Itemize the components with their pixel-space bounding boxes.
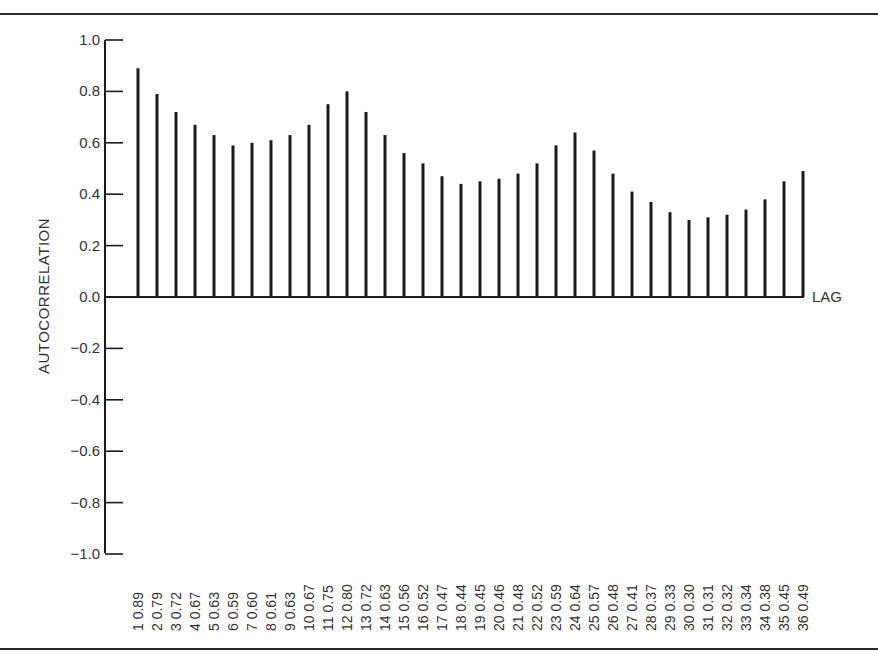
lag-value-label: 33 0.34	[738, 584, 754, 631]
lag-value-label: 27 0.41	[624, 584, 640, 631]
lag-value-label: 13 0.72	[358, 584, 374, 631]
lag-value-label: 1 0.89	[130, 592, 146, 631]
lag-value-label: 30 0.30	[681, 584, 697, 631]
y-tick-label: −0.4	[70, 391, 100, 408]
lag-value-label: 15 0.56	[396, 584, 412, 631]
y-tick-label: 0.6	[79, 134, 100, 151]
lag-value-label: 31 0.31	[700, 584, 716, 631]
lag-value-label: 5 0.63	[206, 592, 222, 631]
y-tick-label: −0.8	[70, 494, 100, 511]
lag-value-label: 20 0.46	[491, 584, 507, 631]
y-tick-label: 0.8	[79, 82, 100, 99]
lag-value-label: 10 0.67	[301, 584, 317, 631]
lag-value-label: 25 0.57	[586, 584, 602, 631]
lag-value-label: 14 0.63	[377, 584, 393, 631]
y-tick-label: 0.0	[79, 288, 100, 305]
lag-value-label: 9 0.63	[282, 592, 298, 631]
lag-value-label: 17 0.47	[434, 584, 450, 631]
lag-value-label: 12 0.80	[339, 584, 355, 631]
lag-value-label: 7 0.60	[244, 592, 260, 631]
lag-value-label: 22 0.52	[529, 584, 545, 631]
lag-value-label: 11 0.75	[320, 585, 336, 631]
lag-value-label: 6 0.59	[225, 592, 241, 631]
lag-value-label: 36 0.49	[795, 584, 811, 631]
lag-value-label: 32 0.32	[719, 584, 735, 631]
lag-value-label: 4 0.67	[187, 592, 203, 631]
y-tick-label: −1.0	[70, 545, 100, 562]
lag-value-label: 28 0.37	[643, 584, 659, 631]
lag-value-label: 26 0.48	[605, 584, 621, 631]
lag-value-label: 16 0.52	[415, 584, 431, 631]
y-axis-label: AUTOCORRELATION	[35, 218, 52, 374]
lag-value-label: 23 0.59	[548, 584, 564, 631]
lag-value-label: 21 0.48	[510, 584, 526, 631]
lag-value-label: 19 0.45	[472, 584, 488, 631]
lag-value-label: 2 0.79	[149, 592, 165, 631]
lag-value-label: 8 0.61	[263, 592, 279, 631]
y-tick-label: 1.0	[79, 31, 100, 48]
x-axis-label: LAG	[812, 288, 842, 305]
y-tick-label: −0.6	[70, 442, 100, 459]
lag-value-label: 18 0.44	[453, 584, 469, 631]
lag-value-label: 35 0.45	[776, 584, 792, 631]
autocorrelation-chart: 1.00.80.60.40.20.0−0.2−0.4−0.6−0.8−1.01 …	[0, 0, 878, 665]
y-tick-label: 0.2	[79, 237, 100, 254]
y-tick-label: 0.4	[79, 185, 100, 202]
lag-value-label: 3 0.72	[168, 592, 184, 631]
lag-value-label: 24 0.64	[567, 584, 583, 631]
lag-value-label: 34 0.38	[757, 584, 773, 631]
lag-value-label: 29 0.33	[662, 584, 678, 631]
y-tick-label: −0.2	[70, 339, 100, 356]
